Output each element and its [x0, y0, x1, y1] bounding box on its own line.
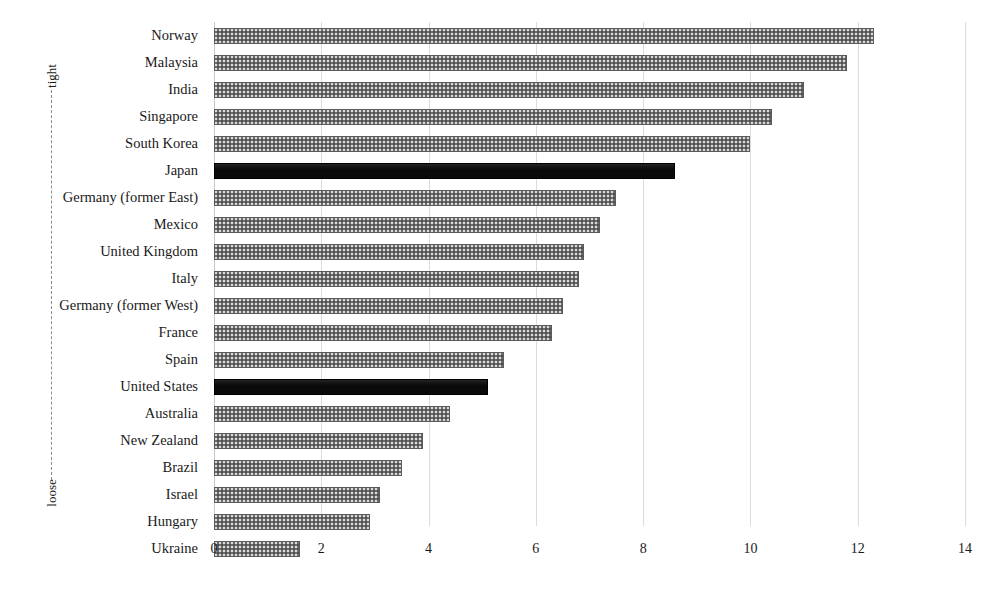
bar-row [214, 184, 965, 211]
x-tick-label: 6 [516, 541, 556, 557]
x-tick-label: 8 [623, 541, 663, 557]
category-label: Malaysia [0, 49, 206, 76]
category-label: United States [0, 373, 206, 400]
category-label: Brazil [0, 454, 206, 481]
category-label: Australia [0, 400, 206, 427]
gridline [965, 22, 966, 526]
bar-row [214, 346, 965, 373]
category-label: Japan [0, 157, 206, 184]
category-label: Mexico [0, 211, 206, 238]
category-label: South Korea [0, 130, 206, 157]
bar-row [214, 130, 965, 157]
category-axis-labels: NorwayMalaysiaIndiaSingaporeSouth KoreaJ… [0, 22, 206, 562]
bar [214, 325, 552, 341]
category-label: Israel [0, 481, 206, 508]
bar [214, 271, 579, 287]
bar-row [214, 22, 965, 49]
category-label: Spain [0, 346, 206, 373]
bar-highlighted [214, 379, 488, 395]
bar [214, 244, 584, 260]
category-label: Italy [0, 265, 206, 292]
x-tick-label: 2 [301, 541, 341, 557]
bar [214, 460, 402, 476]
bar-row [214, 400, 965, 427]
bar-row [214, 76, 965, 103]
category-label: Singapore [0, 103, 206, 130]
bar [214, 55, 847, 71]
category-label: Ukraine [0, 535, 206, 562]
bar-row [214, 373, 965, 400]
category-label: Hungary [0, 508, 206, 535]
bar [214, 433, 423, 449]
x-tick-label: 0 [194, 541, 234, 557]
bar [214, 352, 504, 368]
x-tick-label: 12 [838, 541, 878, 557]
bar-row [214, 481, 965, 508]
bar [214, 298, 563, 314]
category-label: New Zealand [0, 427, 206, 454]
bar [214, 190, 616, 206]
bar-row [214, 427, 965, 454]
x-axis-tick-labels: 02468101214 [214, 541, 965, 581]
category-label: France [0, 319, 206, 346]
category-label: Norway [0, 22, 206, 49]
plot-area [214, 22, 965, 541]
category-label: United Kingdom [0, 238, 206, 265]
bar-row [214, 211, 965, 238]
bar [214, 514, 370, 530]
bar [214, 109, 772, 125]
bar [214, 82, 804, 98]
bar-row [214, 103, 965, 130]
category-label: Germany (former West) [0, 292, 206, 319]
x-tick-label: 14 [945, 541, 985, 557]
category-label: Germany (former East) [0, 184, 206, 211]
bar-row [214, 292, 965, 319]
bar-row [214, 508, 965, 535]
bar [214, 217, 600, 233]
bar-row [214, 265, 965, 292]
bar-row [214, 238, 965, 265]
bar [214, 28, 874, 44]
tightness-looseness-bar-chart: tight loose NorwayMalaysiaIndiaSingapore… [0, 0, 1001, 597]
bar-row [214, 454, 965, 481]
x-tick-label: 4 [409, 541, 449, 557]
x-tick-label: 10 [730, 541, 770, 557]
bar-highlighted [214, 163, 675, 179]
bar-row [214, 49, 965, 76]
bar [214, 406, 450, 422]
bar-series [214, 22, 965, 562]
category-label: India [0, 76, 206, 103]
bar-row [214, 157, 965, 184]
bar [214, 487, 380, 503]
bar [214, 136, 750, 152]
bar-row [214, 319, 965, 346]
